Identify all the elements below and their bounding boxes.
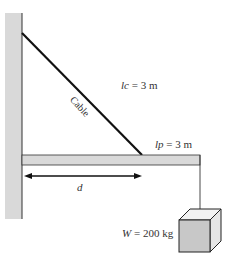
d-dimension-arrow [24, 173, 142, 179]
lp-label: lp = 3 m [155, 138, 192, 150]
weight-box [179, 209, 221, 252]
lc-value: = 3 m [129, 79, 158, 91]
lc-variable: lc [121, 79, 129, 91]
weight-label: W = 200 kg [122, 227, 173, 239]
lc-label: lc = 3 m [121, 79, 157, 91]
w-variable: W [122, 227, 131, 239]
cable [22, 33, 142, 155]
lp-variable: lp [155, 138, 164, 150]
wall [5, 13, 22, 219]
beam [22, 155, 200, 165]
w-value: = 200 kg [131, 227, 173, 239]
d-label: d [77, 181, 83, 193]
cantilever-diagram [0, 0, 233, 262]
lp-value: = 3 m [164, 138, 193, 150]
